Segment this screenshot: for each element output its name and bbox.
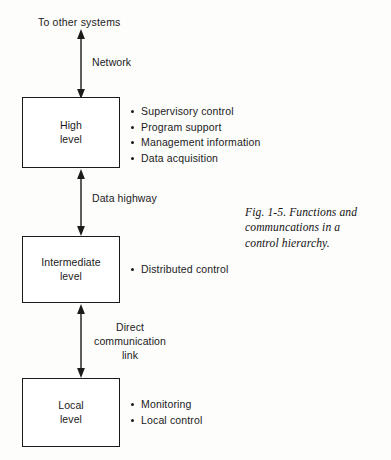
high-level-box: High level: [22, 97, 120, 168]
list-item: Data acquisition: [130, 151, 260, 167]
network-link-label: Network: [92, 55, 131, 69]
local-level-box-label: Local level: [58, 399, 84, 427]
direct-communication-link-arrow: [72, 303, 90, 379]
local-level-box: Local level: [22, 378, 120, 447]
network-arrow: [72, 28, 90, 100]
intermediate-level-bullets: Distributed control: [130, 262, 228, 278]
figure-caption: Fig. 1-5. Functions and communcations in…: [245, 205, 380, 251]
data-highway-link-label: Data highway: [92, 191, 157, 205]
list-item: Monitoring: [130, 397, 202, 413]
to-other-systems-label: To other systems: [38, 16, 121, 28]
local-level-bullets: Monitoring Local control: [130, 397, 202, 428]
list-item: Distributed control: [130, 262, 228, 278]
intermediate-level-box-label: Intermediate level: [41, 256, 101, 284]
high-level-bullets: Supervisory control Program support Mana…: [130, 104, 260, 166]
intermediate-level-box: Intermediate level: [22, 236, 120, 303]
list-item: Supervisory control: [130, 104, 260, 120]
list-item: Local control: [130, 413, 202, 429]
high-level-box-label: High level: [60, 119, 82, 147]
control-hierarchy-figure: To other systems Network High level Supe…: [0, 0, 391, 460]
list-item: Program support: [130, 120, 260, 136]
data-highway-arrow: [72, 168, 90, 237]
direct-communication-link-label: Direct communication link: [92, 320, 168, 362]
list-item: Management information: [130, 135, 260, 151]
